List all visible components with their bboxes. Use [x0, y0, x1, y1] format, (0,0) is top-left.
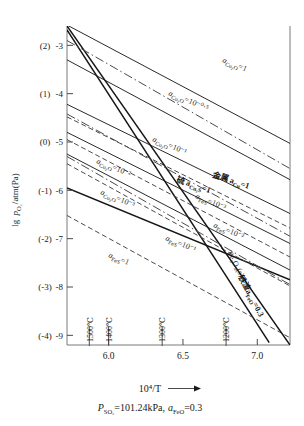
y-tick-label-outer: (-2)	[38, 234, 52, 244]
y-tick-label-inner: -4	[56, 89, 64, 99]
temperature-tick-label: 1200℃	[222, 317, 231, 342]
y-tick-label-outer: (2)	[40, 41, 51, 51]
chart-caption: PSO₂=101.24kPa,aFeO=0.3	[97, 402, 203, 415]
svg-text:10⁴/T: 10⁴/T	[139, 383, 161, 394]
curve-a-cu2o-1	[67, 25, 290, 143]
y-tick-label-outer: (-3)	[38, 282, 52, 292]
x-tick-label: 7.0	[251, 351, 263, 361]
y-tick-label-outer: (0)	[40, 137, 51, 147]
x-axis-title: 10⁴/T	[139, 383, 201, 394]
y-axis-ticks: (2)-3(1)-4(0)-5(-1)-6(-2)-7(-3)-8(-4)-9	[38, 41, 73, 341]
chart-figure: (2)-3(1)-4(0)-5(-1)-6(-2)-7(-3)-8(-4)-9 …	[0, 0, 304, 426]
curve-label: aFeS=10⁻¹	[164, 234, 198, 256]
x-tick-label: 6.0	[103, 351, 115, 361]
y-tick-label-inner: -5	[56, 137, 64, 147]
caption-psub: SO₂	[104, 408, 115, 415]
y-tick-label-inner: -7	[56, 234, 64, 244]
curve-a-cu2o-10-3	[67, 154, 290, 270]
y-tick-label-inner: -8	[56, 282, 64, 292]
curve-a-fes-10-3	[67, 117, 290, 228]
x-axis-title-text: 10⁴/T	[139, 383, 161, 394]
svg-text:lg pO₂/atm(Pa): lg pO₂/atm(Pa)	[10, 173, 22, 227]
temperature-ticks: 1500℃1400℃1300℃1200℃	[86, 317, 232, 346]
y-axis-title: lg pO₂/atm(Pa)	[10, 173, 22, 227]
x-axis-ticks: 6.06.57.0	[103, 339, 264, 361]
caption-p: P	[97, 402, 104, 413]
y-tick-label-outer: (-4)	[38, 331, 52, 341]
curve-label: 硫 aCu₂S=1	[175, 174, 212, 196]
curve-label: aCu₂O=1	[221, 56, 249, 75]
chart-curves	[67, 25, 290, 345]
y-tick-label-inner: -9	[56, 331, 64, 341]
y-tick-label-inner: -3	[56, 41, 64, 51]
temperature-tick-label: 1400℃	[105, 317, 114, 342]
temperature-tick-label: 1300℃	[158, 317, 167, 342]
y-axis-sub: O₂	[15, 204, 22, 211]
y-tick-label-outer: (-1)	[38, 186, 52, 196]
y-tick-label-inner: -6	[56, 186, 64, 196]
x-tick-label: 6.5	[177, 351, 189, 361]
curve-fe3o4-s-slag-a-feo-0-3	[67, 26, 290, 345]
temperature-tick-label: 1500℃	[86, 317, 95, 342]
y-axis-unit: /atm(Pa)	[10, 173, 20, 204]
curve-label: aFeS=10⁻³	[194, 192, 228, 214]
x-axis-arrow-icon	[194, 386, 201, 392]
y-tick-label-outer: (1)	[40, 89, 51, 99]
chart-svg: (2)-3(1)-4(0)-5(-1)-6(-2)-7(-3)-8(-4)-9 …	[0, 0, 304, 426]
y-axis-lg: lg	[10, 219, 20, 227]
curve-label: 金属 aCu=1	[210, 169, 251, 192]
caption-val2: =0.3	[184, 402, 202, 413]
curve-label: aCu₂O=10⁻²	[95, 157, 133, 180]
curve-label: aFeS=1	[107, 251, 131, 269]
caption-asub: FeO	[173, 408, 185, 415]
caption-val1: =101.24kPa,	[114, 402, 165, 413]
